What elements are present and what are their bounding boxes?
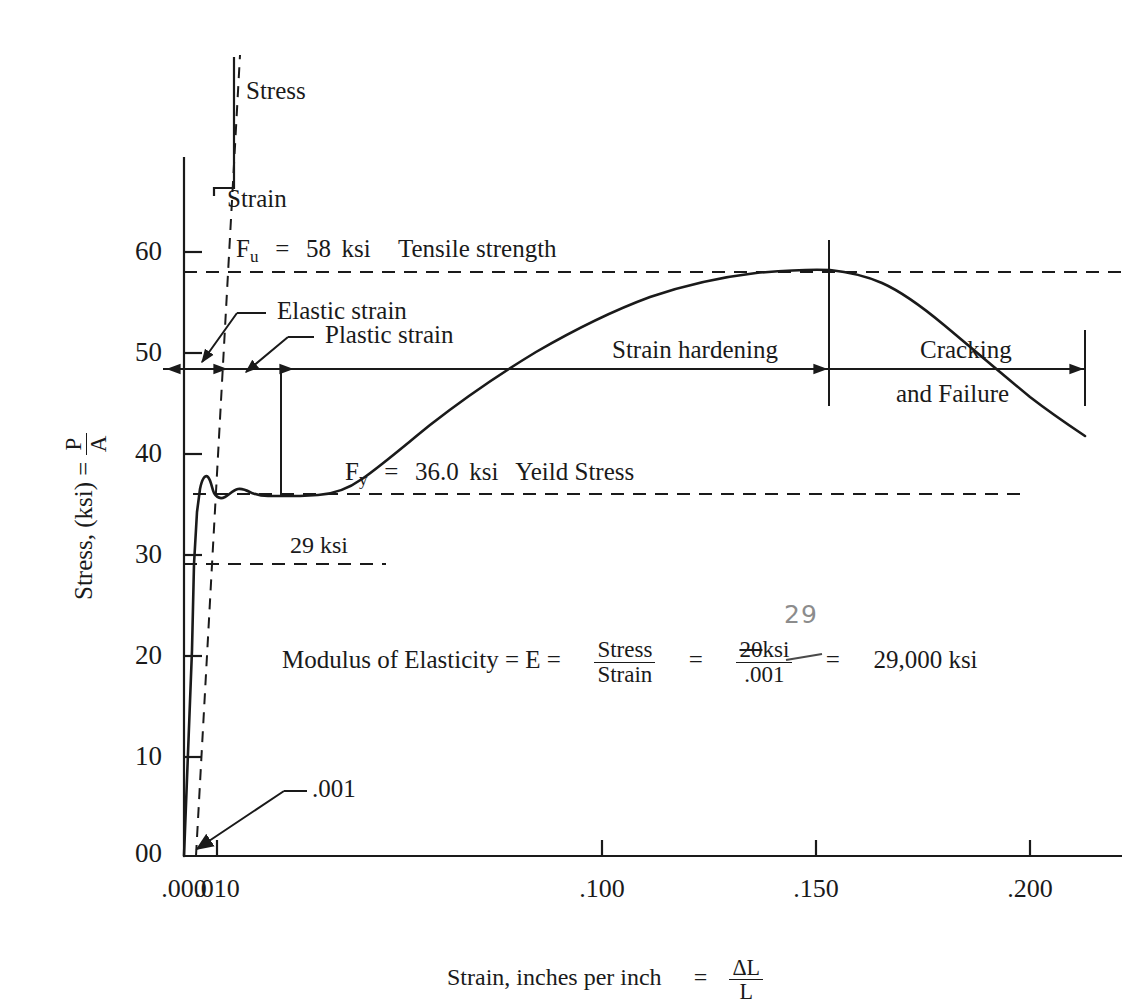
modulus-equals-2: = bbox=[826, 646, 840, 673]
annotation-plastic-strain: Plastic strain bbox=[325, 322, 453, 347]
tensile-equals: = bbox=[275, 235, 289, 262]
tensile-symbol: F bbox=[236, 235, 250, 262]
x-axis-title: Strain, inches per inch = ΔL L bbox=[447, 956, 763, 1003]
y-tick-label-30: 30 bbox=[110, 541, 162, 568]
modulus-value-fraction: 20ksi .001 bbox=[736, 638, 792, 687]
annotation-elastic-strain: Elastic strain bbox=[277, 298, 407, 323]
tensile-value: 58 bbox=[306, 235, 331, 262]
yield-equals: = bbox=[384, 458, 398, 485]
yield-value: 36.0 bbox=[415, 458, 459, 485]
annotation-yield-stress: Fy = 36.0ksi Yeild Stress bbox=[345, 459, 634, 488]
handwritten-correction-29: 29 bbox=[784, 600, 818, 629]
modulus-result: 29,000 ksi bbox=[873, 646, 977, 673]
modulus-strain-label: Strain bbox=[594, 663, 655, 687]
tensile-subscript: u bbox=[250, 247, 259, 266]
y-axis-title: Stress, (ksi) = P A bbox=[62, 433, 111, 600]
tensile-unit: ksi bbox=[342, 235, 371, 262]
y-axis-title-denominator: A bbox=[87, 433, 111, 456]
modulus-stress-strain-fraction: Stress Strain bbox=[594, 638, 655, 687]
x-tick-label-150: .150 bbox=[771, 876, 861, 902]
modulus-numerator-struck-value: 20 bbox=[739, 637, 762, 662]
modulus-formula: Modulus of Elasticity = E = Stress Strai… bbox=[282, 638, 978, 687]
leader-elastic-strain bbox=[202, 313, 266, 362]
y-tick-label-50: 50 bbox=[110, 339, 162, 366]
annotation-strain-hardening: Strain hardening bbox=[612, 337, 778, 362]
y-tick-label-40: 40 bbox=[110, 440, 162, 467]
x-tick-label-200: .200 bbox=[985, 876, 1075, 902]
x-tick-label-100: .100 bbox=[557, 876, 647, 902]
annotation-tensile-strength: Fu = 58ksi Tensile strength bbox=[236, 236, 557, 265]
yield-unit: ksi bbox=[469, 458, 498, 485]
x-axis-ticks bbox=[217, 840, 1030, 856]
annotation-proportional-limit: 29 ksi bbox=[290, 533, 348, 557]
x-axis-title-text: Strain, inches per inch bbox=[447, 964, 662, 990]
yield-symbol: F bbox=[345, 458, 359, 485]
annotation-cracking: Cracking bbox=[920, 337, 1012, 362]
y-tick-label-60: 60 bbox=[110, 238, 162, 265]
annotation-and-failure: and Failure bbox=[896, 381, 1009, 406]
modulus-denominator: .001 bbox=[736, 663, 792, 687]
y-tick-label-20: 20 bbox=[110, 642, 162, 669]
annotation-strain: Strain bbox=[227, 186, 287, 211]
stress-strain-indicator-bracket bbox=[214, 57, 234, 196]
leader-strain-callout bbox=[197, 791, 307, 849]
y-axis-ticks bbox=[184, 252, 202, 757]
yield-text: Yeild Stress bbox=[515, 458, 634, 485]
yield-subscript: y bbox=[359, 470, 368, 489]
y-tick-label-00: 00 bbox=[110, 840, 162, 867]
modulus-numerator: 20ksi bbox=[736, 638, 792, 663]
x-axis-title-fraction: ΔL L bbox=[729, 956, 763, 1003]
x-axis-title-numerator: ΔL bbox=[729, 956, 763, 980]
annotation-stress: Stress bbox=[246, 78, 306, 103]
y-axis-title-numerator: P bbox=[62, 433, 87, 456]
annotation-strain-callout: .001 bbox=[312, 776, 356, 801]
modulus-numerator-unit: ksi bbox=[762, 637, 789, 662]
x-tick-label-010: .010 bbox=[172, 876, 262, 902]
tensile-text: Tensile strength bbox=[398, 235, 557, 262]
x-axis-title-denominator: L bbox=[729, 980, 763, 1003]
leader-plastic-strain bbox=[246, 337, 314, 372]
x-axis-title-equals: = bbox=[694, 964, 708, 990]
y-axis-title-text: Stress, (ksi) = bbox=[70, 455, 97, 600]
y-axis-title-fraction: P A bbox=[62, 433, 111, 456]
modulus-stress-label: Stress bbox=[594, 638, 655, 663]
modulus-formula-lead: Modulus of Elasticity = E = bbox=[282, 646, 561, 673]
y-tick-label-10: 10 bbox=[110, 743, 162, 770]
modulus-equals-1: = bbox=[689, 646, 703, 673]
